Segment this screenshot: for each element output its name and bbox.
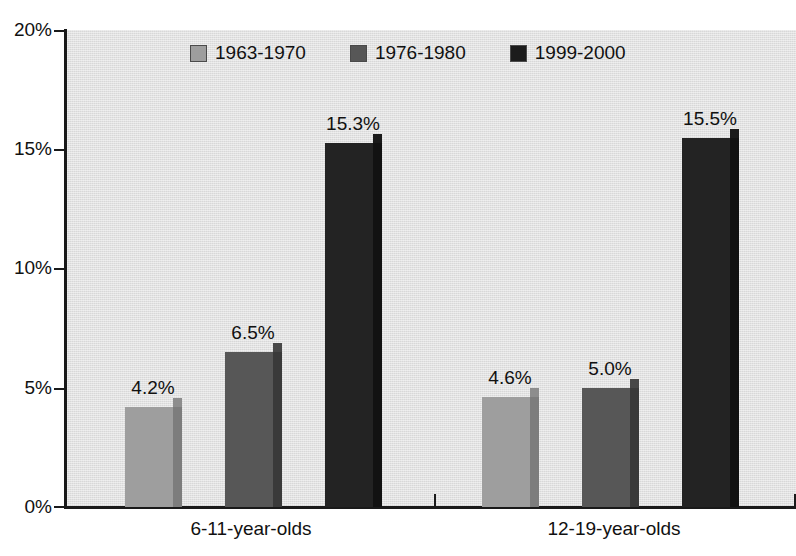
y-axis-label-5: 5% bbox=[2, 377, 52, 399]
bar-value-label-1963-1970-6-11: 4.2% bbox=[131, 377, 174, 399]
legend-swatch-1999-2000-icon bbox=[510, 45, 527, 62]
bar-top-cap bbox=[730, 129, 739, 138]
bar-side-face bbox=[273, 352, 282, 507]
bar-face bbox=[582, 388, 630, 507]
y-tick-10 bbox=[54, 268, 66, 270]
bar-top-cap bbox=[273, 343, 282, 352]
bar-value-label-1999-2000-12-19: 15.5% bbox=[683, 108, 737, 130]
chart-figure: 20% 15% 10% 5% 0% 4.2% 6.5% 15.3% 4.6% bbox=[0, 0, 796, 556]
bar-face bbox=[325, 143, 373, 507]
bar-value-label-1976-1980-12-19: 5.0% bbox=[588, 358, 631, 380]
y-axis-label-15: 15% bbox=[2, 138, 52, 160]
legend-item-1963-1970: 1963-1970 bbox=[190, 42, 306, 64]
bar-side-face bbox=[530, 397, 539, 507]
bar-value-label-1963-1970-12-19: 4.6% bbox=[488, 367, 531, 389]
y-axis-label-10: 10% bbox=[2, 257, 52, 279]
bar-top-cap bbox=[173, 398, 182, 407]
x-axis-label-12-19-year-olds: 12-19-year-olds bbox=[547, 518, 680, 540]
bar-side-face bbox=[630, 388, 639, 507]
bar-1976-1980-6-11-year-olds bbox=[225, 352, 273, 507]
bar-side-face bbox=[730, 138, 739, 507]
bar-value-label-1999-2000-6-11: 15.3% bbox=[326, 113, 380, 135]
bar-face bbox=[482, 397, 530, 507]
legend-swatch-1976-1980-icon bbox=[350, 45, 367, 62]
y-tick-0 bbox=[54, 506, 66, 508]
legend-swatch-1963-1970-icon bbox=[190, 45, 207, 62]
y-axis-label-20: 20% bbox=[2, 19, 52, 41]
legend: 1963-1970 1976-1980 1999-2000 bbox=[190, 42, 626, 64]
x-axis-label-6-11-year-olds: 6-11-year-olds bbox=[190, 518, 311, 540]
y-axis-label-0: 0% bbox=[2, 496, 52, 518]
bar-side-face bbox=[373, 143, 382, 507]
bar-1999-2000-6-11-year-olds bbox=[325, 143, 373, 507]
legend-label-1976-1980: 1976-1980 bbox=[375, 42, 466, 64]
y-axis-labels: 20% 15% 10% 5% 0% bbox=[0, 0, 52, 556]
bar-value-label-1976-1980-6-11: 6.5% bbox=[231, 322, 274, 344]
bar-side-face bbox=[173, 407, 182, 507]
bar-face bbox=[125, 407, 173, 507]
y-tick-5 bbox=[54, 388, 66, 390]
legend-label-1963-1970: 1963-1970 bbox=[215, 42, 306, 64]
bar-1963-1970-12-19-year-olds bbox=[482, 397, 530, 507]
bar-face bbox=[682, 138, 730, 507]
legend-label-1999-2000: 1999-2000 bbox=[535, 42, 626, 64]
bar-1963-1970-6-11-year-olds bbox=[125, 407, 173, 507]
bar-1999-2000-12-19-year-olds bbox=[682, 138, 730, 507]
page-bottom-margin bbox=[0, 548, 796, 556]
legend-item-1999-2000: 1999-2000 bbox=[510, 42, 626, 64]
bar-1976-1980-12-19-year-olds bbox=[582, 388, 630, 507]
bar-top-cap bbox=[373, 134, 382, 143]
bar-top-cap bbox=[630, 379, 639, 388]
x-tick-divider bbox=[434, 494, 436, 507]
y-tick-15 bbox=[54, 149, 66, 151]
bar-face bbox=[225, 352, 273, 507]
legend-item-1976-1980: 1976-1980 bbox=[350, 42, 466, 64]
bar-top-cap bbox=[530, 388, 539, 397]
y-tick-20 bbox=[54, 30, 66, 32]
